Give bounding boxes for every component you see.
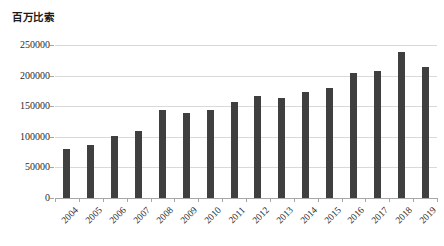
x-tick-mark-0 xyxy=(55,198,56,202)
x-tick-mark-7 xyxy=(222,198,223,202)
bar-2010 xyxy=(207,110,214,198)
x-tick-mark-11 xyxy=(318,198,319,202)
x-tick-mark-16 xyxy=(437,198,438,202)
bar-2019 xyxy=(422,67,429,198)
y-tick-mark-100000 xyxy=(50,137,54,138)
y-tick-mark-0 xyxy=(50,198,54,199)
bar-2007 xyxy=(135,131,142,198)
bar-2012 xyxy=(254,96,261,198)
bar-2015 xyxy=(326,88,333,198)
x-tick-mark-5 xyxy=(174,198,175,202)
x-axis: 2004200520062007200820092010201120122013… xyxy=(55,198,437,246)
y-tick-label-50000: 50000 xyxy=(0,161,50,172)
bar-2008 xyxy=(159,110,166,198)
y-tick-mark-150000 xyxy=(50,106,54,107)
y-tick-mark-200000 xyxy=(50,76,54,77)
bar-chart: 百万比索 050000100000150000200000250000 2004… xyxy=(0,0,444,246)
y-tick-label-0: 0 xyxy=(0,192,50,203)
y-axis-labels: 050000100000150000200000250000 xyxy=(0,0,50,246)
bar-2006 xyxy=(111,136,118,198)
x-tick-mark-12 xyxy=(342,198,343,202)
y-tick-label-200000: 200000 xyxy=(0,70,50,81)
x-tick-mark-1 xyxy=(79,198,80,202)
bar-2016 xyxy=(350,73,357,198)
bar-2014 xyxy=(302,92,309,198)
x-tick-mark-9 xyxy=(270,198,271,202)
x-tick-mark-2 xyxy=(103,198,104,202)
bar-2011 xyxy=(231,102,238,198)
bar-2009 xyxy=(183,113,190,198)
bar-2013 xyxy=(278,98,285,198)
gridline-250000 xyxy=(55,45,437,46)
x-tick-mark-6 xyxy=(198,198,199,202)
y-tick-label-150000: 150000 xyxy=(0,100,50,111)
y-tick-mark-250000 xyxy=(50,45,54,46)
y-tick-label-250000: 250000 xyxy=(0,39,50,50)
bar-2005 xyxy=(87,145,94,198)
bar-2017 xyxy=(374,71,381,198)
plot-area xyxy=(55,45,437,198)
bar-2018 xyxy=(398,52,405,198)
bar-2004 xyxy=(63,149,70,198)
x-tick-mark-10 xyxy=(294,198,295,202)
x-tick-mark-3 xyxy=(127,198,128,202)
x-tick-mark-13 xyxy=(365,198,366,202)
x-tick-mark-15 xyxy=(413,198,414,202)
y-tick-mark-50000 xyxy=(50,167,54,168)
x-tick-mark-14 xyxy=(389,198,390,202)
y-tick-label-100000: 100000 xyxy=(0,131,50,142)
x-tick-mark-4 xyxy=(151,198,152,202)
x-tick-mark-8 xyxy=(246,198,247,202)
